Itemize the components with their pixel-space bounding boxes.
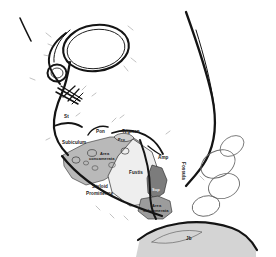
figure-canvas: St Subiculum Pon Tegmen Pro Area concame… [0,0,276,257]
label-area-concamerata-line2: concamerata [89,156,115,161]
label-subiculum: Subiculum [62,140,86,145]
label-fustis: Fustis [129,170,143,175]
label-amp: Amp [158,155,169,160]
label-tegmen: Tegmen [122,129,140,134]
label-styloid-line1: Styloid [92,184,108,189]
label-styloid-line2: Prominence [86,191,113,196]
label-st: St [64,114,69,119]
label-jb: Jb [186,236,192,241]
label-fossula: Fossula [181,162,186,180]
label-area-subcamerata-line2: subcamerata [143,208,169,213]
label-pro: Pro [118,137,125,142]
label-sup: Sup [152,187,160,192]
label-pon: Pon [96,129,105,134]
anatomical-figure: St Subiculum Pon Tegmen Pro Area concame… [0,0,276,257]
